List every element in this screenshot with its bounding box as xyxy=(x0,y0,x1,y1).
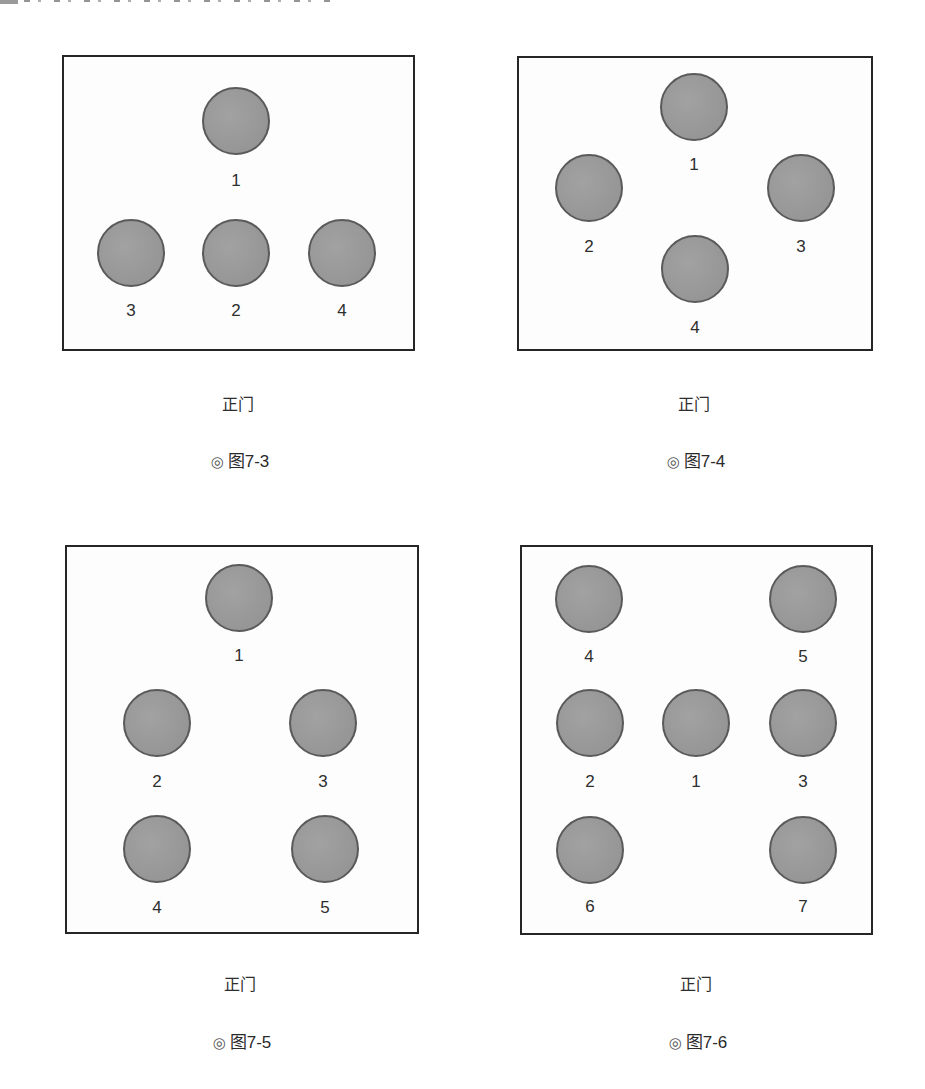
table-number-label: 3 xyxy=(788,772,818,792)
table-number-label: 4 xyxy=(680,318,710,338)
figure-number: 图7-5 xyxy=(230,1033,272,1052)
round-table-3 xyxy=(97,219,165,287)
round-table-4 xyxy=(555,565,623,633)
table-number-label: 1 xyxy=(679,155,709,175)
table-number-label: 6 xyxy=(575,897,605,917)
round-table-2 xyxy=(123,689,191,757)
round-table-1 xyxy=(662,689,730,757)
table-number-label: 1 xyxy=(681,772,711,792)
round-table-1 xyxy=(202,87,270,155)
table-number-label: 5 xyxy=(310,898,340,918)
caption-bullet-icon: ◎ xyxy=(667,450,680,474)
cutoff-text-fragment xyxy=(24,0,334,2)
table-number-label: 7 xyxy=(788,897,818,917)
round-table-6 xyxy=(556,816,624,884)
round-table-1 xyxy=(660,73,728,141)
table-number-label: 3 xyxy=(116,301,146,321)
section-marker xyxy=(0,0,18,4)
previous-page-text-cutoff xyxy=(0,0,340,4)
figure-caption: ◎图7-3 xyxy=(170,450,310,474)
table-number-label: 3 xyxy=(786,237,816,257)
table-number-label: 1 xyxy=(221,171,251,191)
table-number-label: 2 xyxy=(575,772,605,792)
main-entrance-label: 正门 xyxy=(200,974,280,996)
main-entrance-label: 正门 xyxy=(198,394,278,416)
round-table-5 xyxy=(291,815,359,883)
table-number-label: 2 xyxy=(142,772,172,792)
figure-number: 图7-3 xyxy=(228,452,270,471)
figure-number: 图7-4 xyxy=(684,452,726,471)
round-table-4 xyxy=(308,219,376,287)
round-table-7 xyxy=(769,816,837,884)
round-table-2 xyxy=(556,689,624,757)
round-table-3 xyxy=(289,689,357,757)
round-table-4 xyxy=(123,815,191,883)
figure-caption: ◎图7-4 xyxy=(626,450,766,474)
round-table-2 xyxy=(555,154,623,222)
table-number-label: 1 xyxy=(224,646,254,666)
table-number-label: 4 xyxy=(327,301,357,321)
round-table-3 xyxy=(767,154,835,222)
table-number-label: 2 xyxy=(574,237,604,257)
figure-caption: ◎图7-5 xyxy=(172,1031,312,1055)
table-number-label: 2 xyxy=(221,301,251,321)
round-table-5 xyxy=(769,565,837,633)
round-table-2 xyxy=(202,219,270,287)
caption-bullet-icon: ◎ xyxy=(213,1031,226,1055)
round-table-4 xyxy=(661,235,729,303)
figure-caption: ◎图7-6 xyxy=(628,1031,768,1055)
main-entrance-label: 正门 xyxy=(654,394,734,416)
table-number-label: 4 xyxy=(142,898,172,918)
table-number-label: 5 xyxy=(788,647,818,667)
caption-bullet-icon: ◎ xyxy=(211,450,224,474)
round-table-3 xyxy=(769,689,837,757)
table-number-label: 3 xyxy=(308,772,338,792)
main-entrance-label: 正门 xyxy=(656,974,736,996)
round-table-1 xyxy=(205,564,273,632)
table-number-label: 4 xyxy=(574,647,604,667)
caption-bullet-icon: ◎ xyxy=(669,1031,682,1055)
figure-number: 图7-6 xyxy=(686,1033,728,1052)
